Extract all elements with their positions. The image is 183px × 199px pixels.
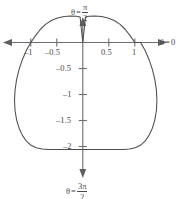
x-tick-label-neg1: –1: [24, 48, 33, 57]
axis-label-bottom-fraction: 3π 2: [77, 182, 88, 199]
axis-label-bottom-numerator: 3π: [77, 182, 88, 192]
axis-label-right-equals: =: [165, 38, 170, 47]
axis-label-top-fraction: π 2: [82, 3, 88, 22]
plot-canvas: [0, 0, 183, 199]
x-tick-label-0-5: 0.5: [101, 48, 112, 57]
y-tick-label-neg2: –2: [63, 142, 72, 151]
axis-label-bottom: θ = 3π 2: [66, 182, 87, 199]
cardioid-curve: [15, 16, 157, 149]
axis-label-top-numerator: π: [82, 3, 88, 13]
polar-plot-figure: θ = π 2 θ = 0 θ = 3π 2 –1 –0.5 0.5 1 –0.…: [0, 0, 183, 199]
axis-label-right: θ = 0: [160, 38, 175, 47]
x-tick-label-neg0-5: –0.5: [45, 48, 60, 57]
y-tick-label-neg0-5: –0.5: [56, 64, 71, 73]
axis-label-top-equals: =: [76, 8, 81, 17]
y-tick-label-neg1-5: –1.5: [56, 116, 71, 125]
axis-label-right-value: 0: [171, 38, 175, 47]
x-axis-left-arrow-icon: [3, 39, 12, 46]
axis-label-bottom-equals: =: [71, 187, 76, 196]
axis-label-bottom-denominator: 2: [79, 192, 85, 199]
axis-label-bottom-theta: θ: [66, 187, 70, 196]
y-tick-label-neg1: –1: [63, 90, 72, 99]
axis-label-top-theta: θ: [71, 8, 75, 17]
y-axis-bottom-arrow-icon: [79, 169, 86, 178]
axis-label-right-theta: θ: [160, 38, 164, 47]
axis-label-top-denominator: 2: [82, 13, 88, 22]
axis-label-top: θ = π 2: [71, 3, 88, 22]
x-tick-label-1: 1: [132, 48, 136, 57]
